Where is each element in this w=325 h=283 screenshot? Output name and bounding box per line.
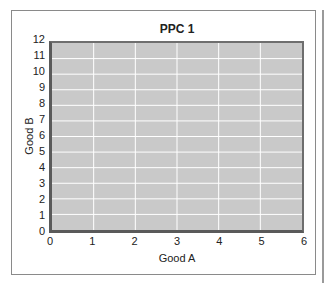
y-tick-label: 3 [23, 178, 45, 189]
y-tick-label: 2 [23, 194, 45, 205]
x-tick-label: 2 [125, 236, 145, 247]
panel-divider [322, 10, 324, 283]
x-tick-label: 6 [294, 236, 314, 247]
x-tick-label: 5 [252, 236, 272, 247]
y-tick-label: 10 [23, 66, 45, 77]
x-tick-label: 4 [209, 236, 229, 247]
y-tick-label: 1 [23, 210, 45, 221]
y-tick-label: 8 [23, 98, 45, 109]
chart-title: PPC 1 [49, 22, 305, 36]
y-tick-label: 9 [23, 82, 45, 93]
y-tick-label: 12 [23, 34, 45, 45]
x-tick-label: 1 [82, 236, 102, 247]
y-tick-label: 11 [23, 50, 45, 61]
plot-area[interactable] [49, 41, 304, 233]
y-axis-label: Good B [23, 111, 35, 161]
gridlines [52, 43, 302, 230]
x-tick-label: 3 [167, 236, 187, 247]
y-tick-label: 4 [23, 162, 45, 173]
x-tick-label: 0 [40, 236, 60, 247]
x-axis-label: Good A [49, 252, 305, 264]
